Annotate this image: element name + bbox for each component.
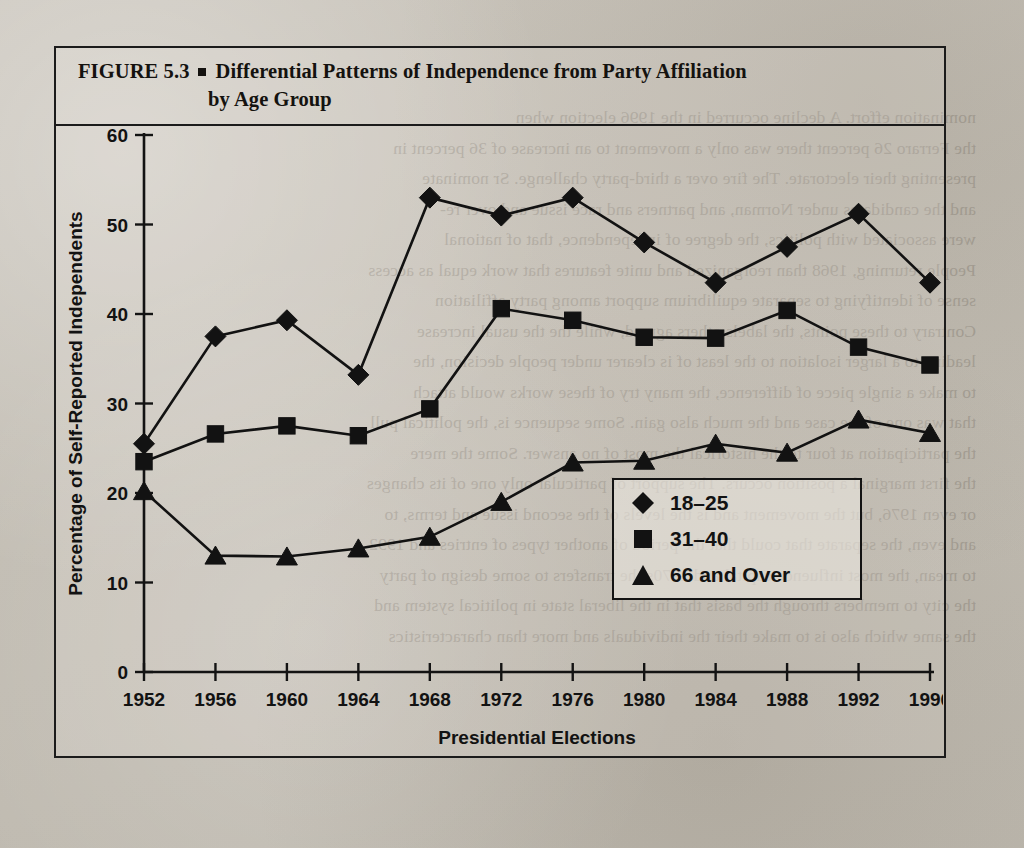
series-2 — [136, 300, 938, 469]
x-axis-tick-label: 1952 — [123, 689, 165, 710]
data-point-marker — [422, 401, 438, 417]
data-point-marker — [491, 205, 512, 226]
data-point-marker — [134, 482, 155, 500]
data-point-marker — [205, 326, 226, 347]
legend-label: 18–25 — [670, 491, 728, 515]
legend-label: 31–40 — [670, 527, 728, 551]
x-axis-tick-label: 1960 — [266, 689, 308, 710]
data-point-marker — [350, 428, 366, 444]
x-axis-tick-label: 1992 — [837, 689, 879, 710]
square-marker-icon — [630, 526, 656, 552]
y-axis-tick-label: 0 — [117, 662, 128, 683]
scanned-page: nomination effort. A decline occurred in… — [0, 0, 1024, 848]
y-axis-tick-label: 60 — [107, 126, 128, 146]
data-point-marker — [562, 187, 583, 208]
figure-title-line-1: Differential Patterns of Independence fr… — [215, 60, 746, 82]
x-axis-tick-label: 1988 — [766, 689, 808, 710]
triangle-marker-icon — [630, 562, 656, 588]
x-axis-tick-label: 1956 — [194, 689, 236, 710]
plot-area: 0102030405060195219561960196419681972197… — [56, 126, 944, 754]
data-point-marker — [136, 453, 152, 469]
data-point-marker — [279, 418, 295, 434]
y-axis-tick-label: 20 — [107, 483, 128, 504]
legend-item: 66 and Over — [614, 557, 860, 593]
y-axis-title: Percentage of Self-Reported Independents — [65, 211, 86, 595]
data-point-marker — [207, 426, 223, 442]
figure-number-label: FIGURE 5.3 — [78, 60, 189, 82]
data-point-marker — [779, 302, 795, 318]
data-point-marker — [419, 187, 440, 208]
data-point-marker — [634, 232, 655, 253]
data-point-marker — [705, 272, 726, 293]
chart-legend: 18–25 31–40 66 and Over — [612, 478, 862, 600]
x-axis-tick-label: 1964 — [337, 689, 380, 710]
legend-item: 31–40 — [614, 521, 860, 557]
data-point-marker — [850, 339, 866, 355]
title-bullet-icon — [198, 68, 206, 76]
series-line — [144, 198, 930, 444]
data-point-marker — [491, 492, 512, 510]
figure-box: FIGURE 5.3Differential Patterns of Indep… — [54, 46, 946, 758]
data-point-marker — [636, 329, 652, 345]
figure-header: FIGURE 5.3Differential Patterns of Indep… — [56, 48, 944, 126]
x-axis-tick-label: 1976 — [552, 689, 594, 710]
y-axis-tick-label: 30 — [107, 394, 128, 415]
figure-title: FIGURE 5.3Differential Patterns of Indep… — [78, 57, 922, 113]
legend-item: 18–25 — [614, 485, 860, 521]
x-axis-tick-label: 1972 — [480, 689, 522, 710]
legend-label: 66 and Over — [670, 563, 790, 587]
series-1 — [134, 187, 941, 454]
data-point-marker — [777, 236, 798, 257]
figure-title-line-2: by Age Group — [208, 85, 922, 113]
x-axis-tick-label: 1968 — [409, 689, 451, 710]
line-chart: 0102030405060195219561960196419681972197… — [56, 126, 943, 754]
data-point-marker — [565, 312, 581, 328]
y-axis-tick-label: 10 — [107, 573, 128, 594]
data-point-marker — [348, 364, 369, 385]
data-point-marker — [493, 300, 509, 316]
data-point-marker — [419, 527, 440, 545]
data-point-marker — [922, 357, 938, 373]
data-point-marker — [276, 310, 297, 331]
x-axis-tick-label: 1984 — [694, 689, 737, 710]
data-point-marker — [848, 410, 869, 428]
x-axis-tick-label: 1980 — [623, 689, 665, 710]
diamond-marker-icon — [630, 490, 656, 516]
y-axis-tick-label: 40 — [107, 304, 128, 325]
data-point-marker — [705, 434, 726, 452]
data-point-marker — [134, 433, 155, 454]
x-axis-title: Presidential Elections — [438, 727, 635, 748]
data-point-marker — [707, 330, 723, 346]
x-axis-tick-label: 1996 — [909, 689, 943, 710]
series-line — [144, 309, 930, 462]
y-axis-tick-label: 50 — [107, 215, 128, 236]
